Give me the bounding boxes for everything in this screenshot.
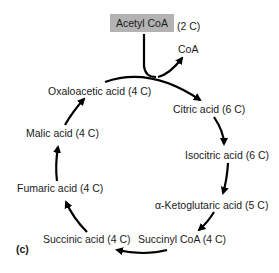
node-ketoglutaric: α-Ketoglutaric acid (5 C) bbox=[155, 199, 268, 211]
citric-to-isocitric-arrow bbox=[214, 117, 224, 144]
ketoglutaric-to-succinyl-arrow bbox=[199, 212, 214, 230]
node-isocitric: Isocitric acid (6 C) bbox=[185, 149, 269, 161]
acetyl-coa-box: Acetyl CoA bbox=[110, 14, 174, 32]
node-succinyl-coa: Succinyl CoA (4 C) bbox=[138, 233, 226, 245]
node-malic: Malic acid (4 C) bbox=[26, 127, 99, 139]
succinic-to-fumaric-arrow bbox=[66, 202, 87, 232]
isocitric-to-ketoglutaric-arrow bbox=[223, 163, 228, 193]
fumaric-to-malic-arrow bbox=[56, 147, 58, 181]
acetyl-coa-entry-arrow bbox=[144, 34, 156, 77]
node-citric: Citric acid (6 C) bbox=[173, 103, 245, 115]
coa-release-arrow bbox=[158, 58, 182, 77]
succinyl-to-succinic-arrow bbox=[117, 250, 167, 253]
malic-to-oxaloacetic-arrow bbox=[65, 99, 84, 125]
node-fumaric: Fumaric acid (4 C) bbox=[17, 182, 103, 194]
acetyl-coa-label: Acetyl CoA bbox=[116, 17, 168, 29]
acetyl-coa-carbons: (2 C) bbox=[177, 20, 200, 32]
panel-label: (c) bbox=[16, 243, 29, 255]
node-succinic: Succinic acid (4 C) bbox=[43, 233, 131, 245]
coa-label: CoA bbox=[178, 43, 198, 55]
node-oxaloacetic: Oxaloacetic acid (4 C) bbox=[48, 85, 151, 97]
